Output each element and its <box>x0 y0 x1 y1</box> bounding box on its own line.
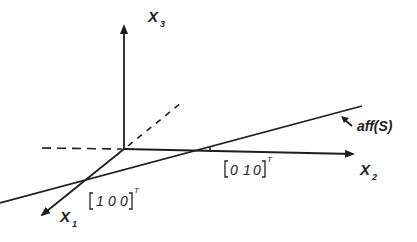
svg-text:T: T <box>267 155 273 164</box>
e2-vector-label: 0 1 0 T <box>225 155 273 178</box>
neg-x1-dashed-axis <box>128 103 181 146</box>
aff-s-label: aff(S) <box>357 118 393 134</box>
svg-text:T: T <box>134 186 140 195</box>
x2-axis-label: X2 <box>359 161 377 182</box>
svg-text:1: 1 <box>96 193 104 209</box>
svg-text:0: 0 <box>120 193 128 209</box>
svg-text:1: 1 <box>243 162 251 178</box>
svg-text:0: 0 <box>230 162 238 178</box>
affine-hull-line <box>0 106 362 203</box>
svg-text:0: 0 <box>253 162 261 178</box>
neg-x2-dashed-axis <box>42 148 122 149</box>
svg-text:0: 0 <box>108 193 116 209</box>
x1-axis-label: X1 <box>59 208 77 229</box>
x3-axis-label: X3 <box>147 8 165 29</box>
e1-vector-label: 1 0 0 T <box>90 186 140 209</box>
aff-pointer-arrow-icon <box>341 116 352 126</box>
x2-axis <box>124 149 353 154</box>
affine-hull-diagram: X3 X2 X1 aff(S) 1 0 0 T 0 1 0 T <box>0 0 417 242</box>
